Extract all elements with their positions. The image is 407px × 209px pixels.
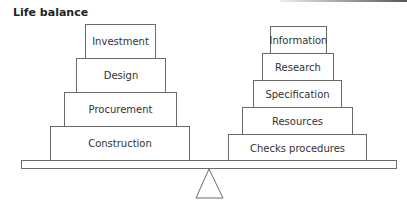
fulcrum-triangle-icon (0, 0, 407, 209)
